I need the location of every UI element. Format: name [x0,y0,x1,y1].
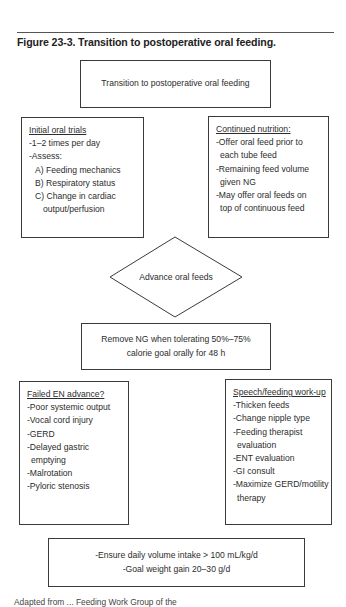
speech-feeding-item: -Feeding therapist [233,426,331,439]
failed-en-item: -Vocal cord injury [27,414,128,427]
advance-decision-text: Advance oral feeds [108,236,244,318]
figure-footnote: Adapted from ... Feeding Work Group of t… [14,597,177,607]
speech-feeding-heading: Speech/feeding work-up [233,386,331,399]
title-rule [17,32,334,33]
initial-trials-item: B) Respiratory status [29,177,143,190]
initial-trials-item: -1–2 times per day [29,137,143,150]
failed-en-heading: Failed EN advance? [27,388,128,401]
start-node-text: Transition to postoperative oral feeding [101,77,249,90]
continued-nutrition-item: each tube feed [216,149,328,162]
goals-line2: -Goal weight gain 20–30 g/d [123,563,231,576]
advance-decision-node: Advance oral feeds [108,236,244,318]
continued-nutrition-item: -Offer oral feed prior to [216,136,328,149]
speech-feeding-item: therapy [233,492,331,505]
failed-en-item: emptying [27,454,128,467]
continued-nutrition-item: top of continuous feed [216,202,328,215]
speech-feeding-item: -Change nipple type [233,412,331,425]
failed-en-item: -Malrotation [27,467,128,480]
speech-feeding-item: -GI consult [233,465,331,478]
initial-trials-heading: Initial oral trials [29,124,143,137]
initial-trials-item: output/perfusion [29,203,143,216]
remove-ng-node: Remove NG when tolerating 50%–75% calori… [81,323,271,370]
failed-en-item: -Delayed gastric [27,441,128,454]
start-node: Transition to postoperative oral feeding [80,60,271,108]
goals-line1: -Ensure daily volume intake > 100 mL/kg/… [95,549,258,562]
initial-trials-item: -Assess: [29,150,143,163]
failed-en-item: -Pyloric stenosis [27,480,128,493]
failed-en-node: Failed EN advance? -Poor systemic output… [19,381,129,525]
continued-nutrition-item: -May offer oral feeds on [216,189,328,202]
initial-trials-item: C) Change in cardiac [29,190,143,203]
failed-en-item: -Poor systemic output [27,401,128,414]
speech-feeding-node: Speech/feeding work-up -Thicken feeds -C… [225,379,332,525]
initial-trials-item: A) Feeding mechanics [29,164,143,177]
continued-nutrition-item: -Remaining feed volume [216,163,328,176]
goals-node: -Ensure daily volume intake > 100 mL/kg/… [48,538,305,587]
speech-feeding-item: -Maximize GERD/motility [233,478,331,491]
continued-nutrition-heading: Continued nutrition: [216,123,328,136]
remove-ng-line2: calorie goal orally for 48 h [127,347,225,360]
continued-nutrition-item: given NG [216,176,328,189]
failed-en-item: -GERD [27,428,128,441]
speech-feeding-item: -Thicken feeds [233,399,331,412]
continued-nutrition-node: Continued nutrition: -Offer oral feed pr… [208,116,329,238]
speech-feeding-item: evaluation [233,439,331,452]
figure-title: Figure 23-3. Transition to postoperative… [17,36,276,48]
initial-trials-node: Initial oral trials -1–2 times per day -… [21,117,144,238]
speech-feeding-item: -ENT evaluation [233,452,331,465]
remove-ng-line1: Remove NG when tolerating 50%–75% [101,333,251,346]
